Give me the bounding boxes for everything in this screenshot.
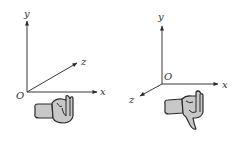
right-coordinate-system: y x z O xyxy=(128,11,228,129)
coordinate-systems-diagram: y x z O y x z O xyxy=(0,0,241,142)
right-y-label: y xyxy=(157,11,164,22)
left-y-label: y xyxy=(23,8,30,19)
right-hand-icon xyxy=(165,91,203,129)
right-z-axis xyxy=(140,84,162,96)
left-coordinate-system: y x z O xyxy=(16,8,106,123)
left-origin-label: O xyxy=(16,90,24,101)
right-x-label: x xyxy=(222,79,228,90)
left-z-axis xyxy=(27,63,77,92)
left-hand-icon xyxy=(35,96,73,123)
left-x-label: x xyxy=(100,86,106,97)
left-z-label: z xyxy=(80,56,87,67)
right-origin-label: O xyxy=(164,71,172,82)
right-z-label: z xyxy=(128,94,135,105)
